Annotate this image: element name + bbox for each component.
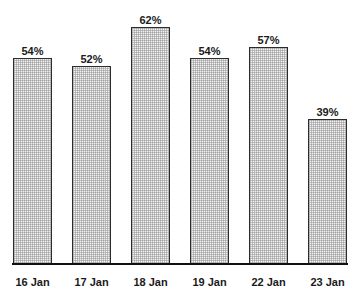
category-label-2: 18 Jan — [123, 276, 178, 288]
bar[interactable] — [190, 58, 229, 264]
plot-area: 54% 52% 62% 54% 57% 39% — [0, 0, 354, 266]
bar-group: 54% — [13, 0, 52, 266]
bar-group: 52% — [72, 0, 111, 266]
bar-group: 57% — [249, 0, 288, 266]
bar-group: 62% — [131, 0, 170, 266]
bar-group: 54% — [190, 0, 229, 266]
category-label-4: 22 Jan — [241, 276, 296, 288]
bar-value-label: 54% — [5, 45, 60, 57]
category-label-0: 16 Jan — [5, 276, 60, 288]
bar-value-label: 62% — [123, 14, 178, 26]
category-label-1: 17 Jan — [64, 276, 119, 288]
bar-group: 39% — [308, 0, 347, 266]
x-axis-line — [12, 263, 348, 265]
category-label-5: 23 Jan — [300, 276, 354, 288]
bar-value-label: 52% — [64, 53, 119, 65]
bar[interactable] — [308, 119, 347, 264]
bar[interactable] — [13, 58, 52, 264]
bar-value-label: 54% — [182, 45, 237, 57]
bar[interactable] — [131, 27, 170, 264]
bar-chart: 54% 52% 62% 54% 57% 39% 16 — [0, 0, 354, 308]
bar-value-label: 57% — [241, 34, 296, 46]
category-axis: 16 Jan 17 Jan 18 Jan 19 Jan 22 Jan 23 Ja… — [0, 276, 354, 300]
bar-value-label: 39% — [300, 106, 354, 118]
category-label-3: 19 Jan — [182, 276, 237, 288]
bar[interactable] — [249, 47, 288, 264]
bar[interactable] — [72, 66, 111, 264]
